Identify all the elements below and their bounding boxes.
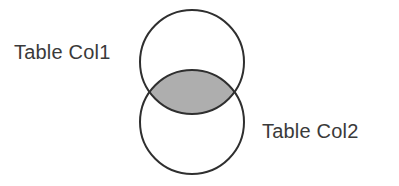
venn-label-set-bottom: Table Col2 <box>262 121 359 141</box>
venn-diagram-figure: Table Col1 Table Col2 <box>0 0 399 186</box>
venn-label-set-top: Table Col1 <box>14 42 111 62</box>
venn-diagram-canvas <box>0 0 399 186</box>
